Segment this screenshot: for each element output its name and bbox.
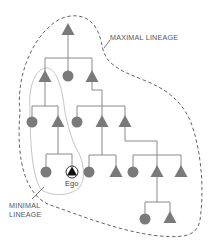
maximal-lineage-boundary	[19, 16, 202, 237]
maximal-lineage-label: MAXIMAL LINEAGE	[110, 33, 178, 42]
female-circle-icon	[140, 214, 151, 225]
male-triangle-icon	[151, 165, 164, 177]
male-triangle-icon	[52, 115, 65, 127]
male-triangle-icon	[96, 115, 109, 127]
male-triangle-icon	[39, 70, 52, 82]
minimal-lineage-label-line2: LINEAGE	[9, 210, 42, 219]
male-triangle-icon	[175, 165, 188, 177]
male-triangle-icon	[62, 23, 75, 35]
female-circle-icon	[63, 71, 74, 82]
female-circle-icon	[84, 167, 95, 178]
male-triangle-icon	[119, 115, 132, 127]
male-triangle-icon	[164, 211, 177, 223]
female-circle-icon	[41, 167, 52, 178]
minimal-lineage-label-line1: MINIMAL	[9, 201, 40, 210]
male-triangle-icon	[86, 70, 99, 82]
maximal-lineage-callout: MAXIMAL LINEAGE	[104, 33, 178, 48]
kinship-nodes	[27, 23, 188, 225]
female-circle-icon	[27, 117, 38, 128]
minimal-lineage-callout: MINIMAL LINEAGE	[9, 187, 44, 219]
ego-label: Ego	[65, 179, 78, 188]
lineage-diagram: Ego MAXIMAL LINEAGE MINIMAL LINEAGE	[0, 0, 214, 247]
female-circle-icon	[128, 167, 139, 178]
female-circle-icon	[72, 117, 83, 128]
male-triangle-icon	[110, 165, 123, 177]
ego-node: Ego	[65, 166, 78, 188]
